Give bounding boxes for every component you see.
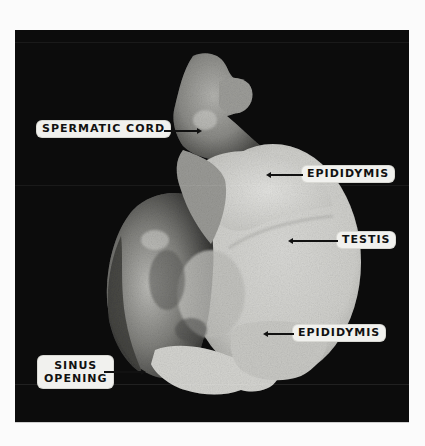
arrowhead-icon: [197, 128, 202, 134]
arrow-testis-icon: [292, 240, 338, 242]
label-sinus-opening: SINUS OPENING: [38, 356, 113, 388]
arrow-epididymis-upper-icon: [270, 174, 303, 176]
arrowhead-icon: [263, 331, 268, 337]
arrowhead-icon: [288, 238, 293, 244]
label-spermatic-cord: SPERMATIC CORD: [37, 121, 170, 137]
arrow-sinus-opening-icon: [104, 371, 142, 373]
label-testis: TESTIS: [337, 232, 395, 248]
arrowhead-icon: [141, 369, 146, 375]
arrowhead-icon: [266, 172, 271, 178]
label-sinus-opening-line2: OPENING: [44, 372, 107, 385]
label-sinus-opening-line1: SINUS: [44, 359, 107, 372]
arrow-epididymis-lower-icon: [267, 333, 294, 335]
arrow-spermatic-cord-icon: [164, 130, 198, 132]
label-epididymis-upper: EPIDIDYMIS: [302, 166, 394, 182]
label-epididymis-lower: EPIDIDYMIS: [293, 325, 385, 341]
